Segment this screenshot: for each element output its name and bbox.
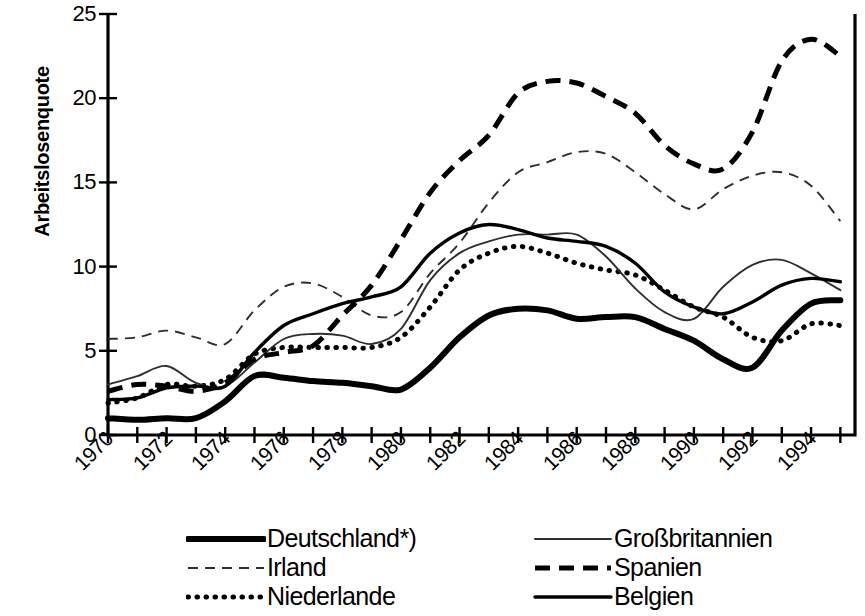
series-line-belgien [108,224,840,399]
unemployment-rate-line-chart: Arbeitslosenquote 0510152025 19701972197… [0,0,865,616]
y-axis-title: Arbeitslosenquote [31,22,54,282]
legend-swatch [533,560,613,576]
legend-item[interactable]: Spanien [533,553,772,582]
chart-legend: Deutschland*)IrlandNiederlande Großbrita… [0,524,865,616]
series-line-spanien [108,39,840,391]
legend-swatch [186,589,266,605]
legend-swatch-line [533,531,613,547]
y-tick-label: 20 [50,87,96,109]
legend-label: Großbritannien [614,526,772,551]
legend-label: Deutschland*) [267,526,416,551]
legend-label: Spanien [614,555,702,580]
legend-swatch-line [533,560,613,576]
legend-swatch [186,531,266,547]
legend-item[interactable]: Deutschland*) [186,524,416,553]
series-layer [108,39,840,420]
legend-label: Niederlande [267,584,395,609]
legend-column-right: GroßbritannienSpanienBelgien [533,524,772,611]
legend-item[interactable]: Niederlande [186,582,416,611]
y-tick-label: 15 [50,171,96,193]
legend-label: Belgien [614,584,693,609]
series-line-deutschland [108,300,840,420]
legend-item[interactable]: Großbritannien [533,524,772,553]
legend-swatch [533,589,613,605]
legend-swatch [186,560,266,576]
legend-column-left: Deutschland*)IrlandNiederlande [186,524,416,611]
y-tick-label: 25 [50,3,96,25]
series-line-irland [108,151,840,345]
y-tick-label: 10 [50,256,96,278]
legend-swatch-line [186,531,266,547]
y-tick-label: 5 [50,340,96,362]
legend-item[interactable]: Irland [186,553,416,582]
legend-item[interactable]: Belgien [533,582,772,611]
legend-swatch-line [186,560,266,576]
axes-layer [99,14,855,443]
legend-swatch [533,531,613,547]
legend-swatch-line [186,589,266,605]
legend-swatch-line [533,589,613,605]
legend-label: Irland [267,555,326,580]
